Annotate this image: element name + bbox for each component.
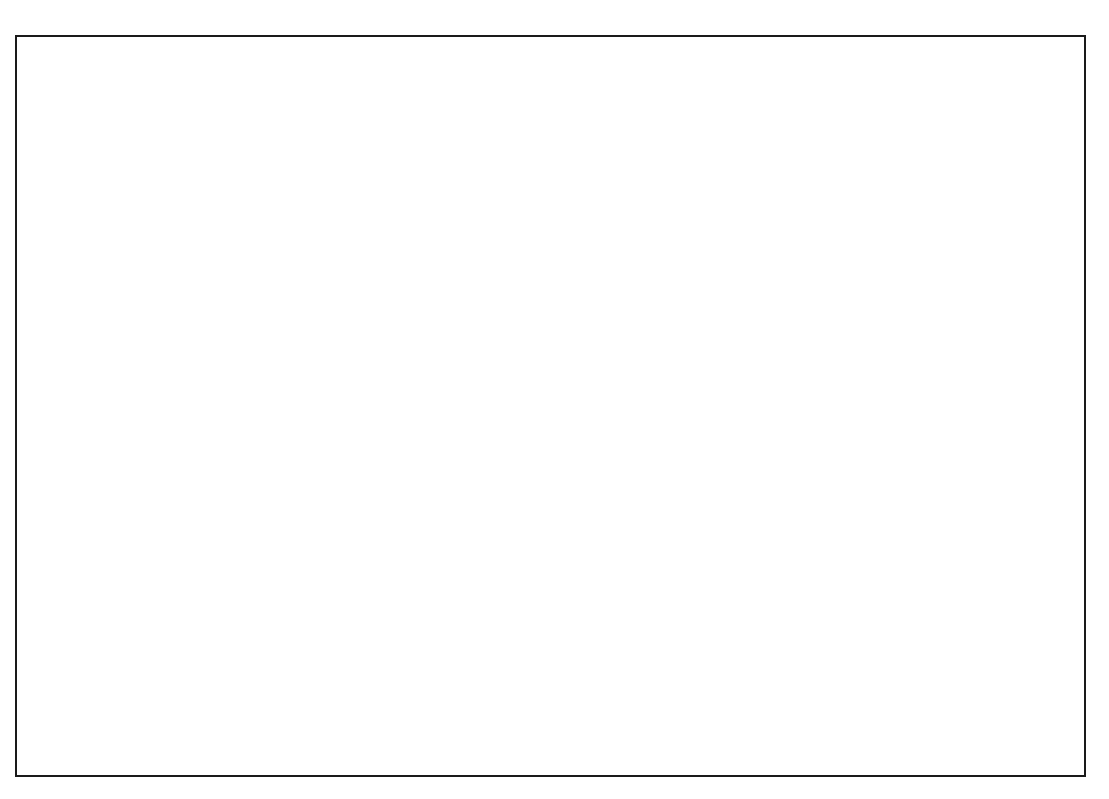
figure-root: 01002003004005006007008009001,000 198019… <box>0 0 1109 799</box>
outer-frame <box>15 35 1086 777</box>
